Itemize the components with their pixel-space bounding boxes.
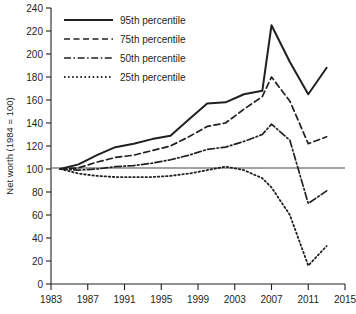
y-tick-label: 20	[32, 256, 44, 267]
x-axis-ticks: 198319871991199519992003200720112015	[40, 284, 356, 305]
legend-label-3: 50th percentile	[120, 53, 186, 64]
line-chart: Net worth (1984 = 100) 02040608010012014…	[0, 0, 356, 314]
series-lines	[60, 25, 326, 265]
series-line-50th-percentile	[60, 124, 326, 203]
y-tick-label: 220	[26, 26, 43, 37]
y-axis-title-text: Net worth (1984 = 100)	[4, 97, 15, 194]
y-tick-label: 120	[26, 141, 43, 152]
y-axis-ticks: 020406080100120140160180200220240	[26, 3, 51, 290]
legend-label-4: 25th percentile	[120, 72, 186, 83]
x-tick-label: 1991	[113, 294, 136, 305]
legend-label-1: 95th percentile	[120, 15, 186, 26]
y-axis-title: Net worth (1984 = 100)	[4, 97, 15, 194]
x-tick-label: 1983	[40, 294, 63, 305]
y-tick-label: 200	[26, 49, 43, 60]
series-line-25th-percentile	[60, 167, 326, 266]
y-tick-label: 160	[26, 95, 43, 106]
y-tick-label: 100	[26, 164, 43, 175]
y-tick-label: 240	[26, 3, 43, 14]
x-tick-label: 1999	[187, 294, 210, 305]
x-tick-label: 2003	[224, 294, 247, 305]
y-tick-label: 0	[37, 279, 43, 290]
x-tick-label: 2007	[260, 294, 283, 305]
y-tick-label: 140	[26, 118, 43, 129]
chart-legend: 95th percentile75th percentile50th perce…	[64, 15, 186, 83]
x-tick-label: 1987	[77, 294, 100, 305]
legend-label-2: 75th percentile	[120, 34, 186, 45]
y-tick-label: 60	[32, 210, 44, 221]
x-tick-label: 2011	[297, 294, 319, 305]
y-tick-label: 80	[32, 187, 44, 198]
x-tick-label: 2015	[334, 294, 356, 305]
y-tick-label: 180	[26, 72, 43, 83]
y-tick-label: 40	[32, 233, 44, 244]
figure-container: Net worth (1984 = 100) 02040608010012014…	[0, 0, 356, 314]
x-tick-label: 1995	[150, 294, 173, 305]
series-line-75th-percentile	[60, 77, 326, 169]
